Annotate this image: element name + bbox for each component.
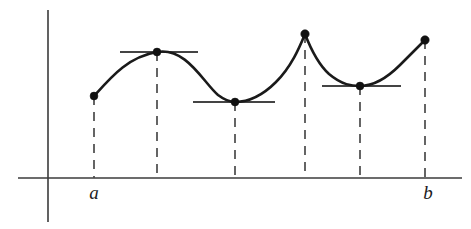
point-cusp-maximum xyxy=(301,30,309,38)
function-curve xyxy=(94,34,425,102)
axes-group xyxy=(18,10,462,222)
point-endpoint-b xyxy=(421,36,429,44)
point-local-minimum-2 xyxy=(356,82,364,90)
point-local-minimum-1 xyxy=(231,98,239,106)
point-endpoint-a xyxy=(90,92,98,100)
point-local-maximum-1 xyxy=(153,48,161,56)
function-graph-figure: a b xyxy=(0,0,471,229)
x-tick-label-b: b xyxy=(423,183,433,202)
x-tick-label-a: a xyxy=(89,183,99,202)
graph-canvas xyxy=(0,0,471,229)
